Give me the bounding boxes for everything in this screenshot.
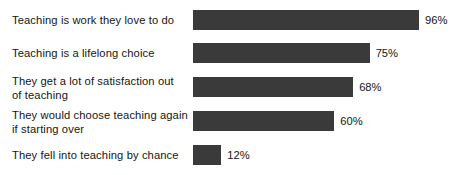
bar-category-label: They get a lot of satisfaction out of te… bbox=[12, 75, 188, 102]
bar-category-label-line1: Teaching is work they love to do bbox=[12, 14, 174, 26]
bar-value-label: 12% bbox=[227, 148, 249, 162]
bar-value-label: 68% bbox=[359, 80, 381, 94]
bar-fill[interactable] bbox=[193, 145, 221, 165]
bar-category-label: Teaching is work they love to do bbox=[12, 14, 188, 28]
bar-category-label-line2: if starting over bbox=[12, 123, 84, 135]
bar-value-label: 60% bbox=[340, 114, 362, 128]
bar-category-label-line1: They get a lot of satisfaction out bbox=[12, 75, 174, 87]
bar-value-label: 96% bbox=[425, 13, 447, 27]
bar-category-label: They fell into teaching by chance bbox=[12, 149, 188, 163]
bar-category-label-line1: They would choose teaching again bbox=[12, 109, 188, 121]
bar-value-label: 75% bbox=[376, 46, 398, 60]
bar-category-label-line2: of teaching bbox=[12, 89, 68, 101]
bar-fill[interactable] bbox=[193, 111, 334, 131]
bar-fill[interactable] bbox=[193, 77, 353, 97]
bar-category-label-line1: They fell into teaching by chance bbox=[12, 149, 179, 161]
bar-fill[interactable] bbox=[193, 10, 419, 30]
bar-category-label: They would choose teaching again if star… bbox=[12, 109, 188, 136]
bar-fill[interactable] bbox=[193, 43, 370, 63]
bar-category-label-line1: Teaching is a lifelong choice bbox=[12, 47, 155, 59]
horizontal-bar-chart: Teaching is work they love to do 96% Tea… bbox=[0, 0, 455, 175]
bar-category-label: Teaching is a lifelong choice bbox=[12, 47, 188, 61]
